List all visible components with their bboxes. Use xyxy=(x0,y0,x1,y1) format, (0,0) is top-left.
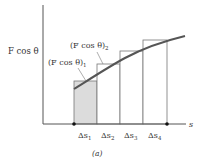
interval-label-4: Δs4 xyxy=(148,131,162,141)
interval-label-3: Δs3 xyxy=(124,131,138,141)
x-axis-label: s xyxy=(189,120,193,129)
bar-interval-3 xyxy=(120,51,143,124)
interval-label-1: Δs1 xyxy=(78,131,91,141)
leader-line-2 xyxy=(97,52,103,64)
interval-label-2: Δs2 xyxy=(101,131,114,141)
bar-interval-4 xyxy=(143,40,167,124)
figure-caption: (a) xyxy=(92,149,102,158)
leader-line-1 xyxy=(78,68,86,81)
y-axis-label: F cos θ xyxy=(8,46,39,56)
annotation-fcos-1: (F cos θ)1 xyxy=(48,58,87,68)
end-point-dot xyxy=(165,122,169,126)
annotation-fcos-2: (F cos θ)2 xyxy=(70,41,109,51)
work-diagram: F cos θ (F cos θ)1 (F cos θ)2 s Δs1 Δs2 … xyxy=(0,0,197,164)
start-point-dot xyxy=(72,122,76,126)
